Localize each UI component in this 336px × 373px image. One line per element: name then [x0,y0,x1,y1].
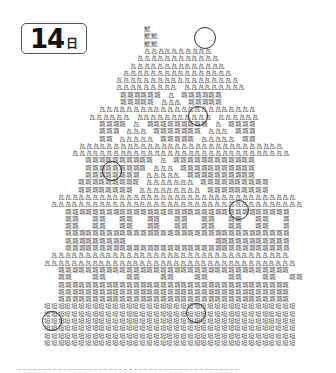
kanji-cell[interactable]: 城 [99,128,106,135]
kanji-cell[interactable]: 瓦 [92,252,99,259]
kanji-cell[interactable]: 城 [255,187,262,194]
kanji-cell[interactable]: 瓦 [166,179,173,186]
kanji-cell[interactable]: 瓦 [180,252,187,259]
kanji-cell[interactable]: 城 [167,245,174,252]
kanji-cell[interactable]: 垣 [187,325,194,332]
kanji-cell[interactable]: 城 [167,282,174,289]
kanji-cell[interactable]: 城 [262,223,269,230]
kanji-cell[interactable]: 瓦 [184,84,191,91]
kanji-cell[interactable]: 瓦 [262,260,269,267]
kanji-cell[interactable]: 瓦 [150,70,157,77]
kanji-cell[interactable]: 城 [72,282,79,289]
kanji-cell[interactable]: 瓦 [96,114,103,121]
kanji-cell[interactable]: 瓦 [160,172,167,179]
kanji-cell[interactable]: 垣 [139,303,146,310]
kanji-cell[interactable]: 垣 [262,311,269,318]
kanji-cell[interactable]: 垣 [166,333,173,340]
kanji-cell[interactable]: 垣 [132,333,139,340]
kanji-cell[interactable]: 瓦 [248,252,255,259]
kanji-cell[interactable]: 城 [72,238,79,245]
kanji-cell[interactable]: 瓦 [255,201,262,208]
kanji-cell[interactable]: 瓦 [119,201,126,208]
kanji-cell[interactable]: 垣 [275,318,282,325]
kanji-cell[interactable]: 垣 [153,318,160,325]
kanji-cell[interactable]: 瓦 [99,252,106,259]
kanji-cell[interactable]: 城 [119,223,126,230]
kanji-cell[interactable]: 瓦 [184,70,191,77]
kanji-cell[interactable]: 城 [208,209,215,216]
kanji-cell[interactable]: 城 [181,230,188,237]
kanji-cell[interactable]: 垣 [282,333,289,340]
kanji-cell[interactable]: 城 [228,179,235,186]
kanji-cell[interactable]: 城 [72,267,79,274]
kanji-cell[interactable]: 城 [119,267,126,274]
kanji-cell[interactable]: 城 [147,92,154,99]
kanji-cell[interactable]: 城 [147,121,154,128]
kanji-cell[interactable]: 垣 [166,303,173,310]
kanji-cell[interactable]: 城 [194,282,201,289]
kanji-cell[interactable]: 瓦 [133,252,140,259]
kanji-cell[interactable]: 瓦 [113,106,120,113]
kanji-cell[interactable]: 瓦 [51,201,58,208]
kanji-cell[interactable]: 城 [85,165,92,172]
kanji-cell[interactable]: 瓦 [85,260,92,267]
kanji-cell[interactable]: 城 [214,187,221,194]
kanji-cell[interactable]: 垣 [64,333,71,340]
kanji-cell[interactable]: 瓦 [140,150,147,157]
kanji-cell[interactable]: 垣 [173,333,180,340]
kanji-cell[interactable]: 瓦 [191,55,198,62]
kanji-cell[interactable]: 城 [126,245,133,252]
kanji-cell[interactable]: 瓦 [144,48,151,55]
kanji-cell[interactable]: 瓦 [215,150,222,157]
kanji-cell[interactable]: 城 [241,179,248,186]
kanji-cell[interactable]: 瓦 [205,48,212,55]
kanji-cell[interactable]: 鯱 [144,26,151,33]
kanji-cell[interactable]: 城 [126,267,133,274]
kanji-cell[interactable]: 城 [262,209,269,216]
kanji-cell[interactable]: 城 [221,179,228,186]
kanji-cell[interactable]: 城 [248,165,255,172]
kanji-cell[interactable]: 垣 [282,318,289,325]
kanji-cell[interactable]: 瓦 [194,194,201,201]
kanji-cell[interactable]: 瓦 [222,143,229,150]
kanji-cell[interactable]: 瓦 [144,55,151,62]
kanji-cell[interactable]: 城 [180,282,187,289]
kanji-cell[interactable]: 垣 [200,325,207,332]
kanji-cell[interactable]: 城 [194,172,201,179]
kanji-cell[interactable]: 城 [214,165,221,172]
kanji-cell[interactable]: 城 [78,267,85,274]
kanji-cell[interactable]: 瓦 [164,70,171,77]
kanji-cell[interactable]: 瓦 [137,63,144,70]
kanji-cell[interactable]: 垣 [248,325,255,332]
kanji-cell[interactable]: 城 [269,296,276,303]
kanji-cell[interactable]: 垣 [275,340,282,347]
kanji-cell[interactable]: 城 [255,223,262,230]
kanji-cell[interactable]: 垣 [180,325,187,332]
kanji-cell[interactable]: 城 [146,289,153,296]
kanji-cell[interactable]: 城 [120,99,127,106]
kanji-cell[interactable]: 城 [92,179,99,186]
kanji-cell[interactable]: 城 [160,128,167,135]
kanji-cell[interactable]: 瓦 [126,128,133,135]
kanji-cell[interactable]: 城 [79,230,86,237]
kanji-cell[interactable]: 城 [187,136,194,143]
kanji-cell[interactable]: 瓦 [65,201,72,208]
kanji-cell[interactable]: 瓦 [276,194,283,201]
kanji-cell[interactable]: 垣 [214,333,221,340]
kanji-cell[interactable]: 城 [276,238,283,245]
kanji-cell[interactable]: 垣 [248,318,255,325]
kanji-cell[interactable]: 瓦 [112,252,119,259]
kanji-cell[interactable]: 瓦 [160,201,167,208]
kanji-cell[interactable]: 城 [228,282,235,289]
kanji-cell[interactable]: 瓦 [139,260,146,267]
kanji-cell[interactable]: 城 [147,245,154,252]
kanji-cell[interactable]: 垣 [146,340,153,347]
kanji-cell[interactable]: 垣 [160,325,167,332]
kanji-cell[interactable]: 城 [255,282,262,289]
kanji-cell[interactable]: 瓦 [79,150,86,157]
kanji-cell[interactable]: 城 [153,245,160,252]
kanji-cell[interactable]: 城 [85,267,92,274]
kanji-cell[interactable]: 城 [167,296,174,303]
kanji-cell[interactable]: 瓦 [177,114,184,121]
kanji-cell[interactable]: 城 [262,289,269,296]
